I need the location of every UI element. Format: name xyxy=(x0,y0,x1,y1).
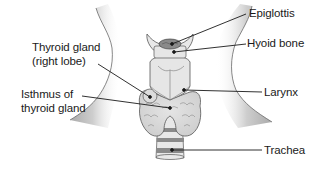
label-thyroid-gland-right-lobe-line1: Thyroid gland xyxy=(32,41,100,54)
label-isthmus-line1: Isthmus of xyxy=(21,88,73,101)
epiglottis xyxy=(159,39,181,49)
thyroid-anatomy-diagram: Epiglottis Hyoid bone Thyroid gland (rig… xyxy=(0,0,325,173)
label-epiglottis: Epiglottis xyxy=(249,7,295,20)
label-isthmus-line2: thyroid gland xyxy=(21,102,86,115)
label-trachea: Trachea xyxy=(264,144,305,157)
label-thyroid-gland-right-lobe-line2: (right lobe) xyxy=(32,55,86,68)
label-hyoid-bone: Hyoid bone xyxy=(247,37,304,50)
label-larynx: Larynx xyxy=(264,86,298,99)
